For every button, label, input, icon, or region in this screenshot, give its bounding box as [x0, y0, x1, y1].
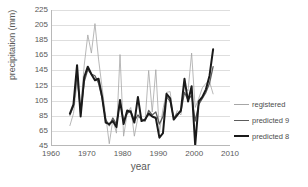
- chart-legend: registeredpredicted 9predicted 8: [234, 96, 308, 144]
- x-tick-label: 1990: [149, 149, 167, 159]
- y-tick-label: 85: [39, 112, 48, 120]
- series-line-predicted-8: [70, 49, 213, 145]
- y-tick-label: 165: [35, 51, 48, 59]
- y-tick-label: 145: [35, 66, 48, 74]
- plot-area: [51, 10, 230, 146]
- legend-entry-registered[interactable]: registered: [234, 96, 308, 112]
- x-tick-label: 1980: [114, 149, 132, 159]
- y-tick-label: 185: [35, 36, 48, 44]
- y-tick-label: 205: [35, 21, 48, 29]
- x-tick-label: 2010: [221, 149, 239, 159]
- legend-swatch-icon: [234, 135, 249, 137]
- y-tick-label: 105: [35, 97, 48, 105]
- legend-label: predicted 8: [252, 132, 289, 141]
- y-tick-label: 225: [35, 6, 48, 14]
- x-tick-label: 2000: [185, 149, 203, 159]
- x-axis-tick-labels: 196019701980199020002010: [51, 149, 230, 161]
- legend-entry-predicted-9[interactable]: predicted 9: [234, 112, 308, 128]
- legend-entry-predicted-8[interactable]: predicted 8: [234, 128, 308, 144]
- series-line-registered: [70, 24, 213, 144]
- precipitation-line-chart: precipitation (mm) 456585105125145165185…: [0, 0, 308, 187]
- x-axis-title: year: [51, 161, 230, 172]
- x-tick-label: 1970: [78, 149, 96, 159]
- legend-label: predicted 9: [252, 116, 289, 125]
- series-lines: [52, 10, 230, 146]
- legend-swatch-icon: [234, 120, 249, 121]
- legend-label: registered: [252, 100, 285, 109]
- x-tick-label: 1960: [42, 149, 60, 159]
- y-tick-label: 125: [35, 82, 48, 90]
- y-axis-title: precipitation (mm): [7, 0, 17, 105]
- legend-swatch-icon: [234, 104, 249, 105]
- y-axis-tick-labels: 456585105125145165185205225: [26, 10, 48, 146]
- y-tick-label: 65: [39, 127, 48, 135]
